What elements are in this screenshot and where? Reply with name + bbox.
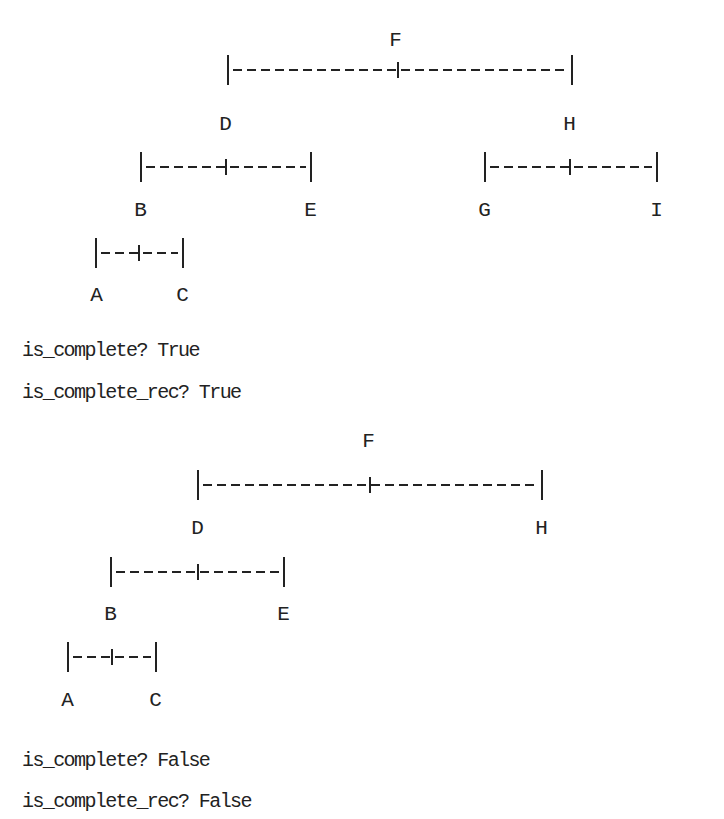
connector-plus xyxy=(369,477,371,493)
connector-plus xyxy=(111,649,113,665)
tree-node-f: F xyxy=(389,30,401,51)
tree-node-h: H xyxy=(563,114,575,135)
tree-node-d: D xyxy=(219,114,231,135)
connector-left-tick xyxy=(140,152,142,182)
connector-right-tick xyxy=(182,238,184,268)
tree-node-g: G xyxy=(478,200,490,221)
tree-connector xyxy=(227,55,573,85)
tree-connector xyxy=(197,470,543,500)
output-line-is-complete-2: is_complete? False xyxy=(22,749,209,772)
connector-plus xyxy=(197,564,199,580)
tree-connector xyxy=(140,152,312,182)
output-line-is-complete-rec-2: is_complete_rec? False xyxy=(22,790,251,813)
tree-node-c: C xyxy=(149,690,161,711)
tree-node-b: B xyxy=(104,604,116,625)
connector-left-tick xyxy=(95,238,97,268)
tree-connector xyxy=(95,238,184,268)
tree-node-b: B xyxy=(134,200,146,221)
tree-node-d: D xyxy=(191,518,203,539)
connector-left-tick xyxy=(67,642,69,672)
tree-node-a: A xyxy=(61,690,73,711)
connector-dashes xyxy=(490,166,652,168)
connector-plus xyxy=(397,62,399,78)
tree-node-h: H xyxy=(535,518,547,539)
connector-right-tick xyxy=(571,55,573,85)
tree-node-e: E xyxy=(304,200,316,221)
tree-node-a: A xyxy=(90,285,102,306)
tree-connector xyxy=(110,557,285,587)
tree-node-e: E xyxy=(277,604,289,625)
connector-right-tick xyxy=(155,642,157,672)
tree-connector xyxy=(67,642,157,672)
tree-node-c: C xyxy=(176,285,188,306)
connector-right-tick xyxy=(541,470,543,500)
tree-node-i: I xyxy=(650,200,662,221)
connector-plus xyxy=(569,159,571,175)
connector-left-tick xyxy=(484,152,486,182)
connector-left-tick xyxy=(197,470,199,500)
output-line-is-complete-1: is_complete? True xyxy=(22,339,199,362)
connector-right-tick xyxy=(310,152,312,182)
output-line-is-complete-rec-1: is_complete_rec? True xyxy=(22,381,240,404)
tree-connector xyxy=(484,152,658,182)
connector-plus xyxy=(225,159,227,175)
connector-plus xyxy=(138,245,140,261)
connector-left-tick xyxy=(110,557,112,587)
tree-node-f: F xyxy=(362,431,374,452)
connector-right-tick xyxy=(283,557,285,587)
connector-dashes xyxy=(233,69,567,71)
connector-left-tick xyxy=(227,55,229,85)
connector-right-tick xyxy=(656,152,658,182)
